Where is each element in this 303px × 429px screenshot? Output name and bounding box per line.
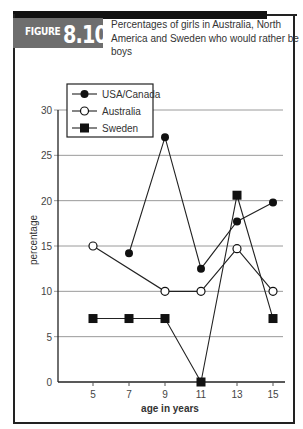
filled-square-marker bbox=[161, 314, 170, 323]
y-tick-label: 15 bbox=[41, 241, 53, 252]
open-circle-marker bbox=[197, 287, 205, 295]
x-tick-label: 15 bbox=[267, 389, 279, 400]
legend-label: Australia bbox=[102, 106, 141, 117]
filled-circle-marker bbox=[269, 198, 277, 206]
filled-square-marker bbox=[269, 314, 278, 323]
legend-label: USA/Canada bbox=[102, 89, 161, 100]
axes: 051015202530579111315 bbox=[41, 105, 285, 400]
filled-circle-marker bbox=[161, 133, 169, 141]
open-circle-marker bbox=[233, 245, 241, 253]
open-circle-marker bbox=[269, 287, 277, 295]
y-tick-label: 30 bbox=[41, 105, 53, 116]
series-lines bbox=[89, 133, 278, 386]
x-tick-label: 7 bbox=[126, 389, 132, 400]
filled-circle-marker bbox=[81, 90, 89, 98]
x-axis-title: age in years bbox=[141, 403, 199, 414]
line-chart: 051015202530579111315 USA/CanadaAustrali… bbox=[0, 0, 303, 429]
filled-square-marker bbox=[125, 314, 134, 323]
open-circle-marker bbox=[89, 242, 97, 250]
filled-square-marker bbox=[80, 124, 89, 133]
y-tick-label: 0 bbox=[46, 377, 52, 388]
filled-square-marker bbox=[89, 314, 98, 323]
x-tick-label: 13 bbox=[231, 389, 243, 400]
filled-square-marker bbox=[233, 191, 242, 200]
filled-square-marker bbox=[197, 378, 206, 387]
filled-circle-marker bbox=[125, 249, 133, 257]
legend: USA/CanadaAustraliaSweden bbox=[67, 84, 161, 137]
x-tick-label: 5 bbox=[90, 389, 96, 400]
x-tick-label: 9 bbox=[162, 389, 168, 400]
series-line-sweden bbox=[93, 195, 273, 382]
y-tick-label: 20 bbox=[41, 196, 53, 207]
series-line-australia bbox=[93, 246, 273, 291]
gridlines bbox=[54, 110, 283, 337]
open-circle-marker bbox=[161, 287, 169, 295]
legend-label: Sweden bbox=[102, 123, 138, 134]
y-tick-label: 10 bbox=[41, 286, 53, 297]
filled-circle-marker bbox=[197, 265, 205, 273]
y-axis-title: percentage bbox=[28, 215, 39, 265]
series-line-usa-canada bbox=[129, 137, 273, 268]
filled-circle-marker bbox=[233, 218, 241, 226]
y-tick-label: 25 bbox=[41, 150, 53, 161]
open-circle-marker bbox=[81, 107, 89, 115]
x-tick-label: 11 bbox=[196, 389, 207, 400]
y-tick-label: 5 bbox=[46, 332, 52, 343]
